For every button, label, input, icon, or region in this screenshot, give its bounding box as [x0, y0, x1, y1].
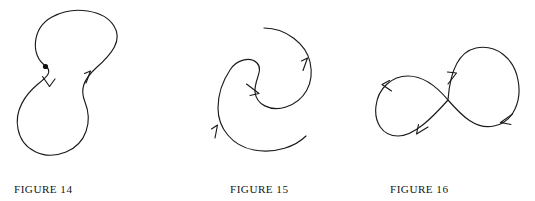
figure-16-drawing — [352, 0, 535, 166]
direction-arrow-up-icon — [302, 58, 308, 71]
direction-arrow-right-down-icon — [247, 84, 260, 96]
s-spiral-arc-curve — [218, 28, 311, 151]
direction-arrow-left-icon — [501, 114, 513, 125]
figure-15-caption: FIGURE 15 — [230, 183, 288, 195]
base-point-dot — [43, 64, 48, 69]
direction-arrow-up-icon-2 — [212, 125, 218, 138]
figure-16-caption: FIGURE 16 — [390, 183, 448, 195]
figure-15: FIGURE 15 — [178, 0, 356, 201]
figure-eight-curve — [376, 47, 519, 136]
figure-15-drawing — [178, 0, 356, 166]
figure-16: FIGURE 16 — [352, 0, 535, 201]
figure-14-drawing — [0, 0, 180, 166]
figure-14-caption: FIGURE 14 — [14, 183, 72, 195]
peanut-loop-curve — [17, 10, 117, 155]
figure-14: FIGURE 14 — [0, 0, 180, 201]
figure-plate: FIGURE 14 FIGURE 15 FIGURE — [0, 0, 535, 201]
